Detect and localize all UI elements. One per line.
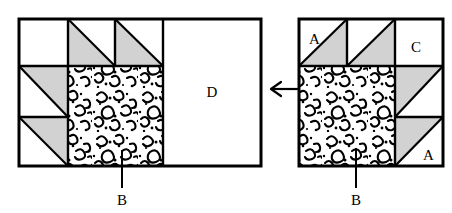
figure-container: D B [0,0,452,213]
right-diagram: A C A B [299,19,443,208]
right-label-c: C [411,39,421,55]
right-label-a-bottom: A [423,147,434,163]
left-label-d: D [207,84,218,100]
left-region-b-texture [68,66,163,166]
right-label-b: B [351,192,361,208]
left-label-b: B [117,192,127,208]
composite-region-diagram: D B [0,0,452,213]
left-diagram: D B [19,19,261,208]
right-label-a-top: A [309,31,320,47]
right-region-b-texture [299,66,395,166]
